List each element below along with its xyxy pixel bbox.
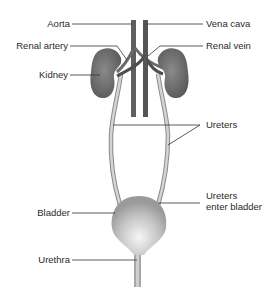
label-renal-vein: Renal vein [206,40,251,51]
label-ureters-enter-1: Ureters [206,190,237,201]
label-urethra: Urethra [38,254,70,265]
label-bladder: Bladder [37,207,70,218]
label-ureters-enter-2: enter bladder [206,201,262,212]
label-vena-cava: Vena cava [206,18,251,29]
vena-cava-vessel [143,20,148,117]
label-aorta: Aorta [47,18,70,29]
label-renal-artery: Renal artery [16,40,68,51]
renal-vessels [117,48,163,76]
label-kidney: Kidney [39,69,68,80]
urinary-system-diagram: Aorta Vena cava Renal artery Renal vein … [0,0,279,291]
urethra [134,252,141,287]
ureters [111,74,168,205]
label-ureters: Ureters [206,119,237,130]
bladder [112,196,167,255]
